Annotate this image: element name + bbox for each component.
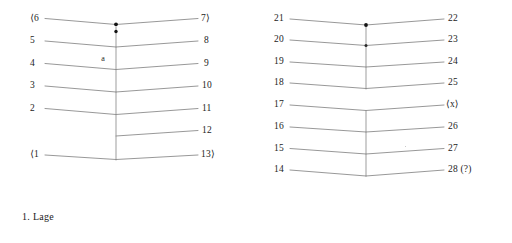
leaf-line-right-1 bbox=[366, 19, 444, 25]
leaf-line-right-3 bbox=[116, 64, 198, 70]
leaf-line-right-4 bbox=[366, 83, 444, 89]
leaf-line-right-3 bbox=[366, 62, 444, 67]
leaf-line-right-8 bbox=[366, 170, 444, 176]
row-label-right: 11 bbox=[202, 104, 212, 114]
row-label-left: 15 bbox=[274, 144, 284, 154]
leaf-line-right-5 bbox=[366, 105, 444, 111]
row-label-right: 22 bbox=[448, 14, 458, 24]
row-label-left: 16 bbox=[274, 122, 284, 132]
row-label-right: 8 bbox=[204, 36, 209, 46]
row-label-right: 10 bbox=[202, 81, 212, 91]
leaf-line-left-1 bbox=[45, 19, 116, 25]
row-label-left: ⟨6 bbox=[30, 14, 39, 24]
leaf-line-left-4 bbox=[290, 83, 366, 89]
row-label-left: 5 bbox=[30, 36, 35, 46]
leaf-line-left-8 bbox=[290, 170, 366, 176]
row-label-left: 17 bbox=[274, 100, 284, 110]
leaf-line-left-3 bbox=[45, 64, 116, 70]
row-label-right: 28 (?) bbox=[448, 165, 472, 175]
leaf-line-left-7 bbox=[290, 149, 366, 155]
row-label-right: 24 bbox=[448, 57, 458, 67]
vertex-dot-upper bbox=[364, 23, 368, 27]
figure-root: ⟨6 5 4 3 2 ⟨1 7⟩ 8 9 10 11 12 13⟩ a 1. L… bbox=[0, 0, 512, 243]
panel-1-linework bbox=[0, 0, 256, 200]
leaf-line-left-4 bbox=[45, 86, 116, 92]
row-label-left: 2 bbox=[30, 104, 35, 114]
row-label-right: 9 bbox=[204, 59, 209, 69]
row-label-left: 4 bbox=[30, 59, 35, 69]
leaf-line-right-2 bbox=[366, 40, 444, 46]
row-label-right: ⟨x⟩ bbox=[446, 100, 459, 110]
leaf-line-left-3 bbox=[290, 62, 366, 67]
row-label-right: 7⟩ bbox=[201, 14, 210, 24]
row-label-right: 13⟩ bbox=[201, 150, 215, 160]
row-label-left: ⟨1 bbox=[30, 150, 39, 160]
leaf-line-right-7 bbox=[116, 155, 198, 160]
leaf-line-left-2 bbox=[290, 40, 366, 46]
row-label-right: 23 bbox=[448, 35, 458, 45]
leaf-line-left-2 bbox=[45, 41, 116, 47]
row-label-right: 12 bbox=[202, 126, 212, 136]
leaf-line-right-5 bbox=[116, 109, 198, 115]
leaf-line-left-5 bbox=[290, 105, 366, 111]
leaf-line-left-5 bbox=[45, 109, 116, 115]
leaf-line-right-1 bbox=[116, 19, 198, 25]
leaf-line-right-4 bbox=[116, 86, 198, 92]
diagram-panel-1: ⟨6 5 4 3 2 ⟨1 7⟩ 8 9 10 11 12 13⟩ a 1. L… bbox=[0, 0, 256, 243]
panel-2-linework bbox=[256, 0, 512, 200]
diagram-panel-2: 21 20 19 18 17 16 15 14 22 23 24 25 ⟨x⟩ … bbox=[256, 0, 512, 243]
leaf-line-left-1 bbox=[290, 19, 366, 25]
vertex-dot-lower bbox=[365, 44, 368, 47]
row-label-left: 18 bbox=[274, 78, 284, 88]
row-label-right: 26 bbox=[448, 122, 458, 132]
row-label-left: 20 bbox=[274, 35, 284, 45]
row-label-left: 3 bbox=[30, 81, 35, 91]
row-label-right: 25 bbox=[448, 78, 458, 88]
leaf-line-left-7 bbox=[45, 155, 116, 160]
row-label-left: 14 bbox=[274, 165, 284, 175]
leaf-line-left-6 bbox=[290, 127, 366, 132]
panel-1-caption: 1. Lage bbox=[22, 211, 54, 222]
leaf-line-right-6 bbox=[366, 127, 444, 132]
leaf-line-right-2 bbox=[116, 41, 198, 47]
row-label-left: 21 bbox=[274, 14, 284, 24]
row-label-right: 27 bbox=[448, 144, 458, 154]
vertex-dot-lower bbox=[114, 30, 117, 33]
row-label-left: 19 bbox=[274, 57, 284, 67]
vertex-dot-upper bbox=[114, 22, 118, 26]
leaf-line-right-7 bbox=[366, 149, 444, 155]
leaf-line-right-6 bbox=[116, 131, 198, 137]
vertex-annotation-a: a bbox=[101, 54, 105, 63]
